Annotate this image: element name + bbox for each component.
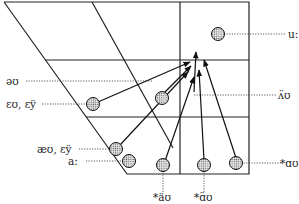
- label-au-high: ʌ̈ʊ: [277, 89, 290, 101]
- label-star-au3: *ɑʊ: [280, 157, 298, 169]
- dot-eu: [87, 98, 100, 111]
- vowel-labels: u: əʊ ʌ̈ʊ ɛʊ, ɛÿ æʊ, ɛÿ a: *äʊ *ɑ̈ʊ *ɑʊ: [6, 28, 298, 203]
- arrow-au-high: [194, 52, 196, 92]
- arrow-star-au3: [204, 60, 236, 158]
- arrow-schwa-u: [162, 66, 191, 95]
- label-schwa-u: əʊ: [6, 75, 19, 87]
- dot-u: [212, 28, 225, 41]
- label-eu: ɛʊ, ɛÿ: [6, 98, 36, 110]
- dot-schwa-u: [156, 92, 169, 105]
- dot-star-au2: [198, 159, 211, 172]
- dot-star-au1: [157, 159, 170, 172]
- dot-a-long: [123, 155, 136, 168]
- arrow-star-au2: [199, 70, 204, 160]
- dot-ae: [110, 143, 123, 156]
- label-star-au1: *äʊ: [153, 191, 171, 203]
- label-a-long: a:: [68, 155, 78, 167]
- label-u: u:: [288, 28, 298, 40]
- arrow-ae: [120, 72, 188, 145]
- vowel-dots: [87, 28, 243, 172]
- label-ae: æʊ, ɛÿ: [37, 143, 71, 155]
- dot-star-au3: [230, 157, 243, 170]
- vowel-diagram: u: əʊ ʌ̈ʊ ɛʊ, ɛÿ æʊ, ɛÿ a: *äʊ *ɑ̈ʊ *ɑʊ: [0, 0, 299, 204]
- leader-lines: [26, 34, 286, 193]
- label-star-au2: *ɑ̈ʊ: [194, 191, 212, 203]
